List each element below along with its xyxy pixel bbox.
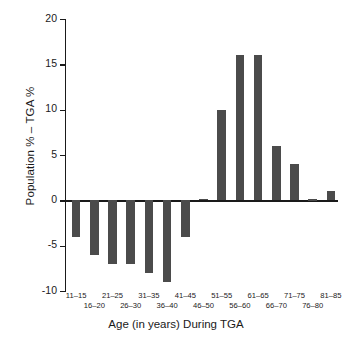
x-tick-label: 56–60 [226,301,254,310]
bar [108,200,117,263]
bar [290,164,299,200]
bar [90,200,99,254]
bar [181,200,190,236]
x-tick-label: 61–65 [244,291,272,300]
x-tick-label: 21–25 [99,291,127,300]
bar [254,55,263,200]
x-tick-label: 11–15 [62,291,90,300]
plot-area: 20151050-5-10 [65,19,338,291]
bar [163,200,172,282]
bar [199,199,208,201]
bar [217,110,226,201]
x-tick-label: 76–80 [299,301,327,310]
bar [72,200,81,236]
bar-chart-figure: Population % – TGA % 20151050-5-10 11–15… [0,0,352,350]
x-axis-title: Age (in years) During TGA [0,318,352,330]
x-tick-label: 31–35 [135,291,163,300]
y-axis-title: Population % – TGA % [24,46,36,246]
x-tick-label: 81–85 [317,291,345,300]
y-tick-label: 15 [23,57,57,69]
bar [308,199,317,200]
x-tick-label: 16–20 [80,301,108,310]
x-tick-label: 46–50 [190,301,218,310]
bar [327,191,336,200]
y-tick-label: -5 [23,238,57,250]
x-tick-label: 51–55 [208,291,236,300]
x-axis-tick-labels: 11–1516–2021–2526–3031–3536–4041–4546–50… [65,291,338,315]
bar [236,55,245,200]
y-tick-label: 20 [23,12,57,24]
bar [272,146,281,200]
y-tick-label: 0 [23,193,57,205]
bar-series [65,19,338,291]
bar [145,200,154,273]
x-tick-label: 71–75 [281,291,309,300]
x-tick-label: 36–40 [153,301,181,310]
y-tick-label: 10 [23,102,57,114]
x-tick-label: 66–70 [262,301,290,310]
bar [126,200,135,263]
x-tick-label: 26–30 [117,301,145,310]
y-tick-label: 5 [23,148,57,160]
x-tick-label: 41–45 [171,291,199,300]
y-tick-label: -10 [23,284,57,296]
